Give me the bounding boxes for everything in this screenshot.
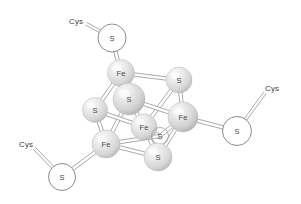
atom-s-cys-bottom: S bbox=[49, 164, 76, 191]
ligand-label-cys-top: Cys bbox=[69, 17, 83, 26]
atom-s-cys-right: S bbox=[223, 117, 252, 146]
atom-fe-right: Fe bbox=[168, 102, 198, 132]
atom-fe-bottom: Fe bbox=[92, 130, 120, 158]
iron-sulfur-cluster-figure: SFeSSSFeFeSSFeSS CysCysCys bbox=[0, 0, 301, 204]
ligand-label-cys-bottom: Cys bbox=[19, 140, 33, 149]
atom-fe-center: Fe bbox=[131, 114, 157, 140]
atom-s-right-top: S bbox=[166, 67, 192, 93]
cluster-diagram-canvas: SFeSSSFeFeSSFeSS CysCysCys bbox=[0, 0, 301, 204]
atom-s-left: S bbox=[83, 98, 108, 123]
atom-s-bottom: S bbox=[144, 143, 172, 171]
atom-s-cys-top: S bbox=[98, 24, 126, 52]
ligand-label-cys-right: Cys bbox=[265, 84, 279, 93]
atom-fe-top: Fe bbox=[108, 60, 135, 87]
atom-s-center: S bbox=[113, 83, 145, 115]
